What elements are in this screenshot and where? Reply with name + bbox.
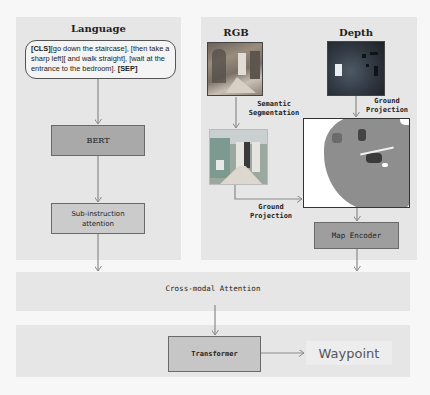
cross-modal-attention-label: Cross-modal Attention <box>16 284 410 293</box>
semantic-segmentation-label: Semantic Segmentation <box>244 100 304 118</box>
ground-projection-depth-label: Ground Projection <box>362 97 412 115</box>
waypoint-label: Waypoint <box>319 346 380 361</box>
transformer-block: Transformer <box>168 336 261 372</box>
semantic-segmentation-image <box>209 129 268 185</box>
map-encoder-label: Map Encoder <box>332 231 382 240</box>
semantic-map-image <box>303 118 410 208</box>
sep-token: [SEP] <box>118 64 138 73</box>
transformer-label: Transformer <box>191 350 237 358</box>
cls-token: [CLS] <box>31 44 51 53</box>
depth-title: Depth <box>327 27 385 38</box>
ground-projection-seg-label: Ground Projection <box>242 203 300 221</box>
depth-image <box>327 41 385 96</box>
bert-block: BERT <box>51 125 145 156</box>
instruction-text: [go down the staircase], [then take a sh… <box>31 44 169 73</box>
subinstruction-label-line2: attention <box>82 219 114 229</box>
bert-label: BERT <box>87 136 110 145</box>
instruction-text-box: [CLS][go down the staircase], [then take… <box>25 40 176 79</box>
subinstruction-attention-block: Sub-instruction attention <box>51 203 145 234</box>
rgb-image <box>207 42 263 96</box>
subinstruction-label-line1: Sub-instruction <box>71 209 124 219</box>
map-encoder-block: Map Encoder <box>314 222 399 249</box>
waypoint-output: Waypoint <box>306 341 392 365</box>
rgb-title: RGB <box>207 27 265 38</box>
language-title: Language <box>16 23 181 34</box>
